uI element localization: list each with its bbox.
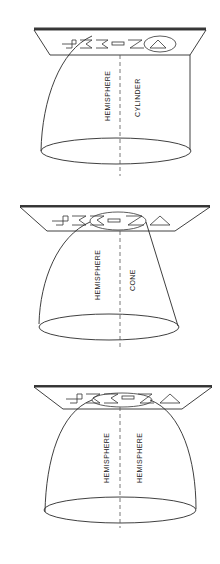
label-hemisphere: HEMISPHERE bbox=[94, 250, 101, 300]
diagram-canvas: HEMISPHERE CYLINDER HEMISPHERE CONE bbox=[0, 0, 220, 564]
cone-edge bbox=[146, 222, 178, 326]
base-ellipse bbox=[41, 138, 191, 164]
base-ellipse bbox=[39, 314, 179, 340]
lettered-plate bbox=[34, 387, 212, 409]
panel-hemisphere-hemisphere: HEMISPHERE HEMISPHERE bbox=[34, 385, 212, 528]
label-cylinder: CYLINDER bbox=[134, 78, 141, 117]
label-cone: CONE bbox=[129, 269, 136, 291]
label-hemisphere-right: HEMISPHERE bbox=[136, 433, 143, 483]
lettered-plate bbox=[34, 30, 206, 55]
panel-hemisphere-cylinder: HEMISPHERE CYLINDER bbox=[34, 28, 206, 177]
label-hemisphere-left: HEMISPHERE bbox=[103, 433, 110, 483]
hemisphere-outline-right bbox=[150, 400, 196, 509]
hemisphere-outline-left bbox=[45, 400, 92, 512]
label-hemisphere: HEMISPHERE bbox=[104, 71, 111, 121]
panel-hemisphere-cone: HEMISPHERE CONE bbox=[20, 205, 210, 348]
hemisphere-outline bbox=[39, 222, 90, 324]
